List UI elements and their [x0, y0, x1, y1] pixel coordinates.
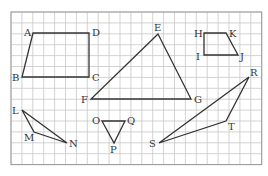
triangle-RST: RST	[149, 67, 258, 149]
quadrilateral-ABCD: ADCB	[12, 27, 100, 83]
quadrilateral-ABCD-outline	[22, 33, 89, 77]
vertex-label-G: G	[194, 94, 202, 105]
vertex-label-O: O	[92, 115, 100, 126]
vertex-label-K: K	[229, 28, 237, 39]
vertex-label-M: M	[24, 132, 34, 143]
vertex-label-N: N	[69, 138, 78, 149]
vertex-label-F: F	[81, 94, 88, 105]
vertex-label-I: I	[196, 51, 200, 62]
vertex-label-A: A	[23, 27, 32, 38]
grid-canvas: ADCBEFGHKJIRSTLMNOQP	[0, 0, 268, 176]
vertex-label-C: C	[92, 72, 100, 83]
vertex-label-L: L	[12, 105, 19, 116]
vertex-label-B: B	[12, 72, 19, 83]
vertex-label-H: H	[194, 28, 203, 39]
grid-lines	[11, 12, 262, 165]
vertex-label-E: E	[154, 22, 161, 33]
vertex-label-Q: Q	[127, 115, 135, 126]
vertex-label-T: T	[228, 121, 235, 132]
vertex-label-J: J	[239, 51, 244, 62]
geometry-grid-diagram: ADCBEFGHKJIRSTLMNOQP	[0, 0, 268, 176]
vertex-label-S: S	[149, 138, 156, 149]
vertex-label-P: P	[110, 144, 117, 155]
vertex-label-R: R	[250, 67, 258, 78]
vertex-label-D: D	[92, 27, 100, 38]
